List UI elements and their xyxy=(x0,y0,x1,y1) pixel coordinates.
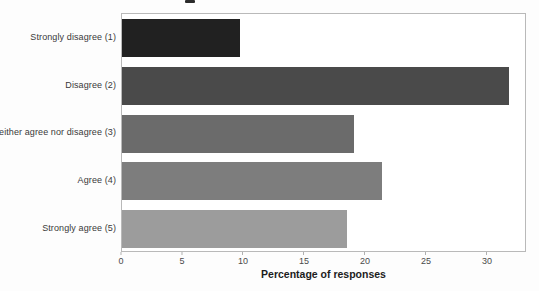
category-label: Disagree (2) xyxy=(0,61,116,109)
bar-row xyxy=(122,157,525,205)
x-tick: 30 xyxy=(482,252,492,266)
x-tick: 0 xyxy=(118,252,123,266)
bar xyxy=(122,115,354,153)
x-tick-label: 30 xyxy=(482,256,492,266)
x-tick-label: 25 xyxy=(421,256,431,266)
x-tick-label: 15 xyxy=(299,256,309,266)
tick-mark xyxy=(120,252,121,255)
x-tick-label: 5 xyxy=(179,256,184,266)
x-tick: 5 xyxy=(179,252,184,266)
x-tick: 25 xyxy=(421,252,431,266)
bar-row xyxy=(122,14,525,62)
plot-area xyxy=(121,13,526,252)
tick-mark xyxy=(364,252,365,255)
y-axis-labels: Strongly disagree (1)Disagree (2)Neither… xyxy=(0,13,116,252)
cropped-title-fragment xyxy=(185,0,195,3)
bar xyxy=(122,19,240,57)
x-axis-title: Percentage of responses xyxy=(121,268,526,280)
x-tick: 15 xyxy=(299,252,309,266)
bar xyxy=(122,162,382,200)
x-tick-label: 0 xyxy=(118,256,123,266)
x-tick: 10 xyxy=(238,252,248,266)
tick-mark xyxy=(486,252,487,255)
category-label: Strongly disagree (1) xyxy=(0,13,116,61)
category-label: Neither agree nor disagree (3) xyxy=(0,109,116,157)
x-axis-ticks: 051015202530 xyxy=(121,252,526,268)
bar-row xyxy=(122,62,525,110)
category-label: Strongly agree (5) xyxy=(0,204,116,252)
bar xyxy=(122,67,509,105)
tick-mark xyxy=(181,252,182,255)
bar xyxy=(122,210,347,248)
tick-mark xyxy=(425,252,426,255)
category-label: Agree (4) xyxy=(0,156,116,204)
bar-row xyxy=(122,110,525,158)
tick-mark xyxy=(303,252,304,255)
bar-chart: Strongly disagree (1)Disagree (2)Neither… xyxy=(0,0,539,291)
x-tick-label: 10 xyxy=(238,256,248,266)
x-tick: 20 xyxy=(360,252,370,266)
bar-row xyxy=(122,205,525,253)
tick-mark xyxy=(242,252,243,255)
x-tick-label: 20 xyxy=(360,256,370,266)
